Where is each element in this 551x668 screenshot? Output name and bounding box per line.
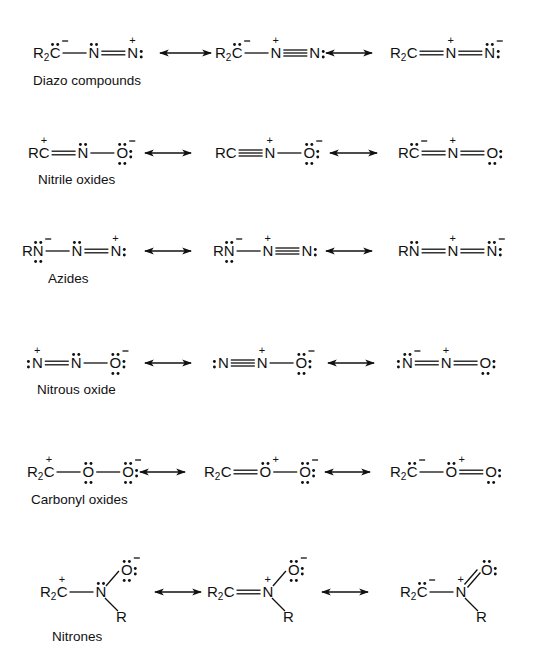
- lone-pair-dot: [123, 579, 126, 582]
- lone-pair-dot: [123, 254, 126, 257]
- lone-pair-dot: [123, 360, 126, 363]
- lone-pair-dot: [238, 43, 241, 46]
- lone-pair-dot: [90, 481, 93, 484]
- lone-pair-dot: [403, 353, 406, 356]
- resonance-structure: R2C+NOR: [40, 558, 140, 625]
- lone-pair-dot: [230, 241, 233, 244]
- lone-pair-dot: [316, 156, 319, 159]
- resonance-structure: RCN+O: [398, 134, 502, 165]
- atom-symbol: N: [127, 44, 138, 61]
- lone-pair-dot: [309, 360, 312, 363]
- lone-pair-dot: [27, 360, 30, 363]
- positive-charge: +: [272, 34, 278, 46]
- atom-symbol: O: [485, 463, 497, 480]
- row-azides: AzidesRNNN+RNN+NRNN+N: [22, 232, 505, 286]
- lone-pair-dot: [488, 241, 491, 244]
- atom-symbol: C: [407, 44, 418, 61]
- lone-pair-dot: [493, 360, 496, 363]
- positive-charge: +: [34, 344, 40, 356]
- lone-pair-dot: [27, 366, 30, 369]
- lone-pair-dot: [488, 162, 491, 165]
- atom-symbol: N: [218, 354, 229, 371]
- lone-pair-dot: [128, 579, 131, 582]
- positive-charge: +: [112, 232, 118, 244]
- lone-pair-dot: [140, 50, 143, 53]
- lone-pair-dot: [499, 150, 502, 153]
- resonance-structure: NN+O: [397, 344, 495, 375]
- positive-charge: +: [450, 134, 456, 146]
- atom-symbol: O: [260, 463, 272, 480]
- lone-pair-dot: [118, 162, 121, 165]
- atom-symbol: O: [299, 463, 311, 480]
- lone-pair-dot: [129, 462, 132, 465]
- lone-pair-dot: [84, 462, 87, 465]
- row-carbonyl-oxides: Carbonyl oxidesR2C+OOR2CO+OR2CO+O: [27, 453, 501, 507]
- lone-pair-dot: [295, 560, 298, 563]
- lone-pair-dot: [39, 241, 42, 244]
- compound-class-label: Diazo compounds: [33, 73, 141, 88]
- lone-pair-dot: [499, 254, 502, 257]
- positive-charge: +: [59, 573, 65, 585]
- atom-symbol: O: [446, 463, 458, 480]
- lone-pair-dot: [79, 143, 82, 146]
- lone-pair-dot: [498, 469, 501, 472]
- atom-symbol: N: [265, 144, 276, 161]
- atom-symbol: R: [33, 44, 44, 61]
- lone-pair-dot: [225, 241, 228, 244]
- lone-pair-dot: [423, 582, 426, 585]
- resonance-structure: N+NO: [27, 344, 129, 375]
- lone-pair-dot: [135, 475, 138, 478]
- lone-pair-dot: [498, 475, 501, 478]
- compound-class-label: Carbonyl oxides: [31, 492, 128, 507]
- lone-pair-dot: [72, 353, 75, 356]
- lone-pair-dot: [90, 43, 93, 46]
- lone-pair-dot: [303, 372, 306, 375]
- positive-charge: +: [458, 453, 464, 465]
- lone-pair-dot: [499, 156, 502, 159]
- lone-pair-dot: [497, 56, 500, 59]
- positive-charge: +: [41, 134, 47, 146]
- lone-pair-dot: [134, 567, 137, 570]
- lone-pair-dot: [305, 162, 308, 165]
- lone-pair-dot: [290, 560, 293, 563]
- resonance-structure: R2CO+O: [390, 453, 501, 484]
- lone-pair-dot: [487, 481, 490, 484]
- atom-symbol: N: [32, 354, 43, 371]
- lone-pair-dot: [310, 162, 313, 165]
- lone-pair-dot: [312, 469, 315, 472]
- lone-pair-dot: [129, 150, 132, 153]
- lone-pair-dot: [483, 560, 486, 563]
- atom-symbol: O: [481, 561, 493, 578]
- bond-line: [467, 573, 480, 588]
- resonance-diagram: Diazo compoundsR2CNN+R2CN+NR2CN+NNitrile…: [0, 0, 551, 668]
- lone-pair-dot: [481, 372, 484, 375]
- lone-pair-dot: [312, 475, 315, 478]
- lone-pair-dot: [123, 143, 126, 146]
- lone-pair-dot: [78, 241, 81, 244]
- lone-pair-dot: [140, 56, 143, 59]
- atom-symbol: N: [456, 583, 467, 600]
- atom-symbol: N: [441, 354, 452, 371]
- atom-symbol: N: [110, 242, 121, 259]
- lone-pair-dot: [225, 260, 228, 263]
- lone-pair-dot: [123, 248, 126, 251]
- atom-symbol: R: [390, 44, 401, 61]
- compound-class-label: Nitrile oxides: [38, 172, 116, 187]
- atom-symbol: N: [263, 242, 274, 259]
- positive-charge: +: [264, 573, 270, 585]
- lone-pair-dot: [410, 143, 413, 146]
- lone-pair-dot: [493, 241, 496, 244]
- lone-pair-dot: [135, 469, 138, 472]
- resonance-structure: RNN+N: [213, 232, 317, 263]
- atom-symbol: R: [207, 583, 218, 600]
- lone-pair-dot: [492, 481, 495, 484]
- atom-symbol: N: [96, 583, 107, 600]
- positive-charge: +: [259, 344, 265, 356]
- atom-symbol: C: [50, 44, 61, 61]
- atom-symbol: N: [309, 44, 320, 61]
- atom-symbol: N: [486, 242, 497, 259]
- lone-pair-dot: [34, 241, 37, 244]
- positive-charge: +: [267, 134, 273, 146]
- lone-pair-dot: [409, 353, 412, 356]
- lone-pair-dot: [415, 143, 418, 146]
